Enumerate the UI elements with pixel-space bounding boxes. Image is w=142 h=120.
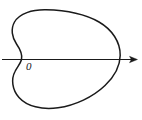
origin-label: 0 — [26, 61, 32, 72]
cardioid-figure: 0 — [0, 0, 142, 120]
figure-canvas — [0, 0, 142, 120]
